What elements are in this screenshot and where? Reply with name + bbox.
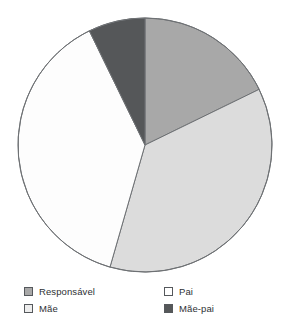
legend-item-mae-pai[interactable]: Mãe-pai [164, 303, 214, 314]
pie-chart-plot-area [0, 0, 281, 281]
pie-slice-group [18, 18, 272, 272]
legend-swatch-pai [164, 287, 173, 296]
legend-row: Mãe Mãe-pai [24, 303, 275, 320]
legend-label-mae: Mãe [39, 303, 58, 314]
legend-item-mae[interactable]: Mãe [24, 303, 164, 314]
pie-chart-figure: Responsável Pai Mãe Mãe-pai [0, 0, 281, 331]
legend-label-responsavel: Responsável [39, 286, 95, 297]
legend-swatch-responsavel [24, 287, 33, 296]
legend-swatch-mae [24, 304, 33, 313]
legend-item-responsavel[interactable]: Responsável [24, 286, 164, 297]
chart-legend: Responsável Pai Mãe Mãe-pai [0, 286, 281, 331]
pie-chart-svg [0, 0, 281, 281]
legend-swatch-mae-pai [164, 304, 173, 313]
legend-row: Responsável Pai [24, 286, 275, 303]
legend-item-pai[interactable]: Pai [164, 286, 193, 297]
legend-label-pai: Pai [179, 286, 193, 297]
legend-label-mae-pai: Mãe-pai [179, 303, 214, 314]
